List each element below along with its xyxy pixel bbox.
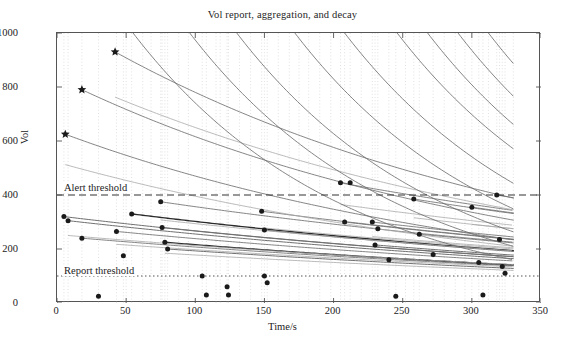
decay-curve-secondary bbox=[65, 165, 513, 247]
y-tick-label: 600 bbox=[2, 135, 18, 146]
aggregate-curve bbox=[458, 33, 513, 96]
peak-star-marker bbox=[78, 85, 87, 93]
plot-area bbox=[56, 32, 540, 302]
report-point-marker bbox=[469, 205, 474, 210]
y-axis-label: Vol bbox=[19, 107, 30, 167]
report-point-marker bbox=[96, 294, 101, 299]
report-point-marker bbox=[204, 292, 209, 297]
chart-title: Vol report, aggregation, and decay bbox=[0, 9, 565, 20]
decay-curve-secondary bbox=[472, 224, 513, 228]
report-point-marker bbox=[226, 292, 231, 297]
report-point-marker bbox=[476, 260, 481, 265]
report-point-marker bbox=[348, 180, 353, 185]
report-point-marker bbox=[61, 214, 66, 219]
x-tick-label: 350 bbox=[532, 305, 548, 316]
x-tick-label: 300 bbox=[463, 305, 479, 316]
y-tick-label: 400 bbox=[2, 189, 18, 200]
chart-root: Vol report, aggregation, and decay 02004… bbox=[0, 0, 565, 343]
report-point-marker bbox=[338, 180, 343, 185]
report-point-marker bbox=[503, 271, 508, 276]
peak-star-marker bbox=[61, 130, 70, 138]
report-threshold-label: Report threshold bbox=[62, 265, 136, 276]
report-point-marker bbox=[500, 264, 505, 269]
report-point-marker bbox=[160, 225, 165, 230]
x-tick-label: 0 bbox=[53, 305, 58, 316]
report-point-marker bbox=[417, 232, 422, 237]
report-point-marker bbox=[121, 253, 126, 258]
report-point-marker bbox=[265, 280, 270, 285]
decay-curve bbox=[414, 199, 514, 213]
y-tick-label: 800 bbox=[2, 81, 18, 92]
y-tick-label: 1000 bbox=[0, 27, 18, 38]
report-point-marker bbox=[162, 240, 167, 245]
x-tick-label: 100 bbox=[186, 305, 202, 316]
x-tick-label: 50 bbox=[120, 305, 131, 316]
decay-curve bbox=[472, 207, 513, 213]
report-point-marker bbox=[114, 229, 119, 234]
report-point-marker bbox=[262, 228, 267, 233]
report-point-marker bbox=[225, 284, 230, 289]
report-point-marker bbox=[373, 242, 378, 247]
report-point-marker bbox=[66, 218, 71, 223]
alert-threshold-label: Alert threshold bbox=[62, 182, 129, 193]
report-point-marker bbox=[259, 209, 264, 214]
report-point-marker bbox=[165, 247, 170, 252]
decay-curve bbox=[115, 52, 513, 198]
report-point-marker bbox=[431, 252, 436, 257]
report-point-marker bbox=[480, 292, 485, 297]
report-point-marker bbox=[393, 294, 398, 299]
aggregate-curve bbox=[428, 33, 514, 124]
peak-star-marker bbox=[111, 47, 120, 55]
report-point-marker bbox=[375, 226, 380, 231]
x-tick-label: 200 bbox=[325, 305, 341, 316]
report-point-marker bbox=[370, 220, 375, 225]
decay-curve bbox=[340, 183, 511, 210]
y-tick-label: 0 bbox=[13, 297, 18, 308]
report-point-marker bbox=[79, 236, 84, 241]
decay-curve-secondary bbox=[115, 97, 513, 210]
x-axis-label: Time/s bbox=[0, 321, 565, 332]
chart-canvas bbox=[57, 33, 541, 303]
report-point-marker bbox=[386, 257, 391, 262]
report-point-marker bbox=[342, 220, 347, 225]
report-point-marker bbox=[494, 193, 499, 198]
aggregate-curve bbox=[190, 33, 514, 246]
report-point-marker bbox=[129, 211, 134, 216]
report-point-marker bbox=[497, 237, 502, 242]
aggregate-curve bbox=[488, 33, 513, 64]
y-tick-label: 200 bbox=[2, 243, 18, 254]
report-point-marker bbox=[262, 274, 267, 279]
report-point-marker bbox=[200, 274, 205, 279]
report-point-marker bbox=[411, 197, 416, 202]
x-tick-label: 250 bbox=[394, 305, 410, 316]
report-point-marker bbox=[158, 199, 163, 204]
x-tick-label: 150 bbox=[256, 305, 272, 316]
